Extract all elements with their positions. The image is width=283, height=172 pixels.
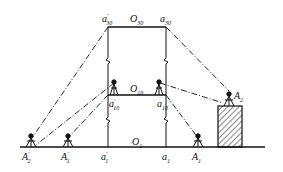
tripod-icon	[155, 80, 163, 95]
left-vertical	[106, 27, 110, 147]
tripod-icon	[110, 80, 118, 95]
label-o30: O30	[130, 13, 143, 26]
label-a1-prime: a'1	[101, 151, 108, 164]
tripod-icon	[193, 134, 203, 147]
building	[218, 106, 242, 147]
label-A1: A1	[191, 151, 201, 164]
diagram-canvas: a'30 O30 a30 O10 a'10 a10 A2 O1 A'2 A'1 …	[0, 0, 283, 172]
label-a1: a1	[162, 151, 170, 164]
label-o10: O10	[130, 83, 143, 96]
label-a10-prime: a'10	[109, 98, 119, 111]
label-A2: A2	[233, 90, 243, 103]
right-vertical	[164, 27, 168, 147]
tripod-icon	[224, 92, 234, 106]
label-A1-prime: A'1	[60, 151, 69, 164]
label-A2-prime: A'2	[21, 151, 30, 164]
label-a30-prime: a'30	[102, 13, 112, 26]
label-a30: a30	[160, 13, 171, 26]
tripod-icon	[63, 134, 73, 147]
tripod-icon	[26, 134, 36, 147]
